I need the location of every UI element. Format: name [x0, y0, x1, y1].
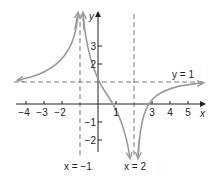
curve-right-branch: [138, 83, 203, 158]
y-tick-label: −2: [85, 135, 97, 146]
vertical-asymptote-left-label: x = −1: [64, 161, 92, 172]
graph: y x y = 1 x = −1 x = 2 −4 −3 −2 1 3 4 5 …: [0, 0, 219, 178]
y-tick-label: 2: [90, 59, 96, 70]
curve-middle-branch-top: [83, 13, 84, 30]
x-tick-label: −3: [36, 107, 48, 118]
horizontal-asymptote-label: y = 1: [172, 69, 194, 80]
x-axis-label: x: [199, 108, 206, 119]
y-tick-label: −1: [85, 117, 97, 128]
curve-right-branch-bottom: [138, 140, 139, 158]
curve-left-branch: [18, 13, 78, 80]
x-tick-label: 5: [185, 107, 191, 118]
x-tick-label: 1: [113, 107, 119, 118]
x-tick-label: 4: [167, 107, 173, 118]
y-axis-label: y: [88, 11, 95, 22]
y-ticks: [98, 46, 102, 140]
x-tick-label: 3: [149, 107, 155, 118]
x-tick-label: −4: [18, 107, 30, 118]
y-tick-label: 3: [90, 41, 96, 52]
x-tick-label: −2: [54, 107, 66, 118]
vertical-asymptote-right-label: x = 2: [124, 161, 146, 172]
